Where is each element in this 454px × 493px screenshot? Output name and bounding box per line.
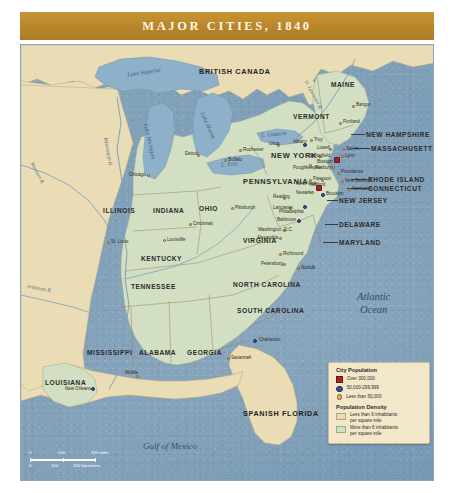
city-marker-louisville[interactable] [163,239,166,242]
city-marker-lynn[interactable] [341,155,344,158]
city-marker-providence[interactable] [337,172,340,175]
page-title: MAJOR CITIES, 1840 [142,19,311,34]
map-scale-bar: 0 100 200 miles 0 100 200 kilometers [29,450,139,470]
scale-km-zero: 0 [29,463,31,468]
leader-line-delaware [325,224,338,225]
legend-swatch-orange-circle-icon [337,394,342,399]
legend-title-city-population: City Population [336,367,429,373]
city-marker-lowell[interactable] [329,148,332,151]
scale-km-mid: 100 [51,463,58,468]
city-marker-savannah[interactable] [227,357,230,360]
leader-line-massachusetts [354,148,370,149]
city-marker-pittsburgh[interactable] [231,207,234,210]
city-marker-salem[interactable] [342,148,345,151]
legend-item-under-50k: Less than 50,000 [336,394,429,400]
legend-swatch-blue-circle-icon [336,386,342,392]
legend-item-over-300k: Over 300,000 [336,376,429,384]
city-marker-newark[interactable] [311,191,314,194]
legend-item-high-density: More than 6 inhabitants per square mile [336,425,429,436]
city-marker-washington-dc[interactable] [283,229,286,232]
city-marker-petersburg[interactable] [283,263,286,266]
legend-title-population-density: Population Density [336,404,429,410]
city-marker-richmond[interactable] [279,253,282,256]
city-marker-st-louis[interactable] [107,241,110,244]
city-marker-norfolk[interactable] [297,267,300,270]
leader-line-maryland [323,242,338,243]
city-marker-boston[interactable] [334,157,340,163]
city-marker-alexandria[interactable] [279,237,282,240]
legend-label-over-300k: Over 300,000 [347,376,375,382]
city-marker-lancaster[interactable] [289,207,292,210]
scale-miles-mid: 100 [58,450,65,455]
city-marker-nantucket[interactable] [348,188,351,191]
city-marker-new-york[interactable] [316,185,322,191]
legend-item-50k-299k: 50,000-299,999 [336,385,429,392]
legend-swatch-tan-icon [336,413,346,420]
city-marker-buffalo[interactable] [224,159,227,162]
legend-swatch-red-square-icon [336,376,343,383]
leader-line-new-hampshire [351,134,365,135]
map-title-banner: MAJOR CITIES, 1840 [20,12,434,40]
city-marker-roxbury[interactable] [332,166,335,169]
city-marker-detroit[interactable] [197,154,200,157]
legend-swatch-green-icon [336,426,346,433]
city-marker-new-bedford[interactable] [341,180,344,183]
scale-bar-graphic [29,458,139,462]
city-marker-chicago[interactable] [147,174,150,177]
city-marker-cincinnati[interactable] [189,223,192,226]
city-marker-utica[interactable] [277,144,280,147]
city-marker-rochester[interactable] [239,149,242,152]
legend-label-high-density: More than 6 inhabitants per square mile [350,425,398,436]
scale-km-end: 200 kilometers [73,463,100,468]
city-marker-poughkeepsie[interactable] [309,164,312,167]
city-marker-paterson[interactable] [309,179,312,182]
scale-miles-end: 200 miles [91,450,109,455]
city-marker-reading[interactable] [283,197,286,200]
leader-line-rhode-island [351,179,367,180]
city-marker-springfield[interactable] [318,155,321,158]
land-west-plains [21,85,133,391]
city-marker-mobile[interactable] [136,375,139,378]
legend-label-under-50k: Less than 50,000 [346,394,381,400]
map-figure: MAJOR CITIES, 1840 [0,0,454,493]
scale-miles-zero: 0 [29,450,31,455]
legend-item-low-density: Less than 6 inhabitants per square mile [336,412,429,423]
city-marker-bangor[interactable] [352,105,355,108]
map-canvas: BRITISH CANADA SPANISH FLORIDA Atlantic … [20,44,434,481]
land-spanish-florida [229,345,297,445]
legend-label-low-density: Less than 6 inhabitants per square mile [350,412,397,423]
leader-line-new-jersey [327,200,338,201]
map-legend: City Population Over 300,000 50,000-299,… [328,362,430,444]
city-marker-troy[interactable] [310,139,313,142]
city-marker-hartford[interactable] [321,179,324,182]
legend-label-50k-299k: 50,000-299,999 [347,385,379,391]
city-marker-portland[interactable] [339,122,342,125]
